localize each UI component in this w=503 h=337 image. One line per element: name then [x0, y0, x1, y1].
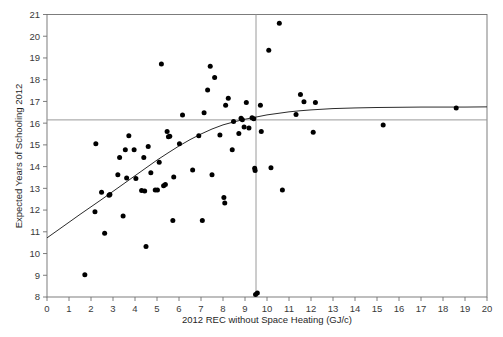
x-tick-label: 0: [44, 303, 49, 314]
plot-canvas: 01234567891011121314151617181920 8910111…: [0, 0, 503, 337]
data-point: [280, 188, 285, 193]
data-point: [155, 188, 160, 193]
y-tick-label: 14: [29, 161, 40, 172]
data-point: [124, 175, 129, 180]
data-point: [223, 103, 228, 108]
x-tick-label: 5: [154, 303, 159, 314]
x-tick-label: 8: [220, 303, 225, 314]
data-point: [253, 168, 258, 173]
data-point: [93, 141, 98, 146]
data-point: [313, 100, 318, 105]
x-tick-label: 11: [284, 303, 294, 314]
data-point: [242, 125, 247, 130]
y-tick-label: 16: [29, 118, 40, 129]
y-tick-label: 17: [29, 96, 40, 107]
data-point: [222, 201, 227, 206]
y-tick-label: 11: [30, 226, 40, 237]
y-tick-label: 10: [29, 248, 40, 259]
data-point: [117, 155, 122, 160]
data-point: [180, 112, 185, 117]
data-point: [208, 64, 213, 69]
x-tick-label: 6: [176, 303, 181, 314]
data-point: [196, 133, 201, 138]
y-tick-label: 9: [35, 270, 40, 281]
data-point: [141, 155, 146, 160]
data-point: [148, 170, 153, 175]
y-tick-label: 12: [29, 204, 40, 215]
x-tick-label: 19: [460, 303, 471, 314]
data-point: [102, 231, 107, 236]
data-point: [221, 195, 226, 200]
y-tick-label: 15: [29, 139, 40, 150]
data-point: [170, 218, 175, 223]
regression-curve: [47, 107, 487, 238]
x-tick-label: 4: [132, 303, 137, 314]
data-point: [255, 291, 260, 296]
x-tick-label: 7: [198, 303, 203, 314]
y-tick-label: 13: [29, 183, 40, 194]
data-point: [226, 96, 231, 101]
data-point: [294, 112, 299, 117]
data-point: [454, 105, 459, 110]
data-point: [202, 110, 207, 115]
y-tick-label: 8: [35, 291, 40, 302]
x-tick-label: 15: [372, 303, 383, 314]
data-point: [298, 92, 303, 97]
data-point: [133, 176, 138, 181]
data-point: [236, 131, 241, 136]
data-point: [146, 144, 151, 149]
data-point: [277, 21, 282, 26]
plot-frame: [47, 15, 487, 298]
data-point: [205, 88, 210, 93]
y-axis-tick-labels: 89101112131415161718192021: [29, 9, 40, 303]
reference-lines: [47, 15, 487, 298]
data-point: [144, 244, 149, 249]
x-tick-label: 14: [350, 303, 361, 314]
data-point: [381, 122, 386, 127]
data-point: [165, 129, 170, 134]
x-tick-label: 3: [110, 303, 115, 314]
data-point: [157, 160, 162, 165]
x-tick-label: 12: [306, 303, 317, 314]
x-tick-label: 9: [242, 303, 247, 314]
data-point: [82, 272, 87, 277]
x-tick-label: 17: [416, 303, 427, 314]
data-point: [240, 117, 245, 122]
data-point: [126, 133, 131, 138]
data-point: [251, 116, 256, 121]
y-tick-label: 20: [29, 31, 40, 42]
data-point: [212, 75, 217, 80]
data-point: [231, 119, 236, 124]
data-point: [107, 192, 112, 197]
x-axis-tick-labels: 01234567891011121314151617181920: [44, 303, 492, 314]
data-point: [171, 175, 176, 180]
data-point: [177, 141, 182, 146]
data-point: [258, 103, 263, 108]
data-point: [167, 134, 172, 139]
scatter-chart-figure: 01234567891011121314151617181920 8910111…: [0, 0, 503, 337]
data-point: [266, 48, 271, 53]
data-point: [259, 129, 264, 134]
x-tick-label: 20: [482, 303, 493, 314]
x-tick-label: 1: [66, 303, 71, 314]
data-point: [210, 172, 215, 177]
y-tick-label: 19: [29, 52, 40, 63]
data-point: [115, 172, 120, 177]
data-point: [163, 182, 168, 187]
x-tick-label: 10: [262, 303, 273, 314]
data-point: [121, 213, 126, 218]
data-points: [82, 21, 458, 297]
data-point: [217, 133, 222, 138]
data-point: [123, 147, 128, 152]
y-axis-ticks: [43, 15, 47, 298]
x-axis-title: 2012 REC without Space Heating (GJ/c): [182, 314, 352, 325]
x-tick-label: 2: [88, 303, 93, 314]
data-point: [92, 209, 97, 214]
fit-curve: [47, 107, 487, 238]
x-axis-ticks: [47, 297, 487, 301]
data-point: [142, 188, 147, 193]
x-tick-label: 13: [328, 303, 339, 314]
data-point: [311, 130, 316, 135]
x-tick-label: 18: [438, 303, 449, 314]
x-tick-label: 16: [394, 303, 405, 314]
